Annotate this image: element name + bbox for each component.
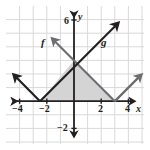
graph-figure: −4 −2 2 4 6 −2 y x f g xyxy=(0,0,150,150)
x-tick-label-neg2: −2 xyxy=(39,104,50,114)
y-tick-label-6: 6 xyxy=(64,16,69,26)
function-label-f: f xyxy=(41,37,45,48)
y-axis-label: y xyxy=(78,12,82,22)
coordinate-plane xyxy=(0,0,150,150)
x-tick-label-neg4: −4 xyxy=(12,104,23,114)
x-tick-label-4: 4 xyxy=(125,104,130,114)
x-axis-label: x xyxy=(136,104,141,114)
function-label-g: g xyxy=(101,37,107,48)
x-tick-label-2: 2 xyxy=(98,104,103,114)
y-tick-label-neg2: −2 xyxy=(57,123,68,133)
